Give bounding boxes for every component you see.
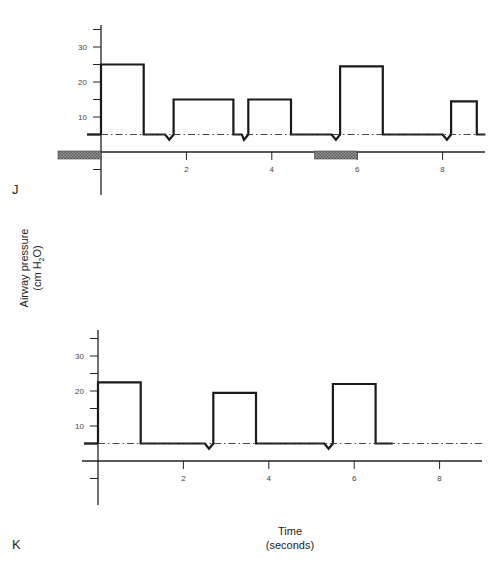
panel-k-chart: 1020302468 [75, 330, 482, 505]
hatched-period-marker [58, 151, 101, 159]
x-tick-label: 2 [181, 474, 186, 483]
y-axis-title-line2: (cm H2O) [31, 245, 45, 290]
panel-label-j: J [12, 182, 19, 197]
y-tick-label: 10 [78, 113, 87, 122]
y-axis-title-line1: Airway pressure [18, 229, 30, 308]
y-axis-title: Airway pressure (cm H2O) [18, 229, 45, 308]
y-tick-label: 20 [78, 78, 87, 87]
x-tick-label: 2 [184, 165, 189, 174]
y-tick-label: 30 [75, 352, 84, 361]
airway-pressure-chart: 1020302468 1020302468 J K Airway pressur… [0, 0, 495, 565]
y-tick-label: 10 [75, 422, 84, 431]
x-tick-label: 4 [270, 165, 275, 174]
pressure-trace [101, 65, 485, 140]
hatched-period-marker [315, 151, 358, 159]
panel-label-k: K [12, 537, 21, 552]
x-tick-label: 6 [352, 474, 357, 483]
y-tick-label: 30 [78, 43, 87, 52]
pressure-trace [98, 382, 393, 449]
x-axis-title-line1: Time [278, 525, 302, 537]
x-tick-label: 8 [440, 165, 445, 174]
x-tick-label: 8 [437, 474, 442, 483]
x-tick-label: 6 [355, 165, 360, 174]
y-tick-label: 20 [75, 387, 84, 396]
panel-j-chart: 1020302468 [58, 25, 485, 195]
x-axis-title-line2: (seconds) [266, 539, 314, 551]
x-tick-label: 4 [267, 474, 272, 483]
